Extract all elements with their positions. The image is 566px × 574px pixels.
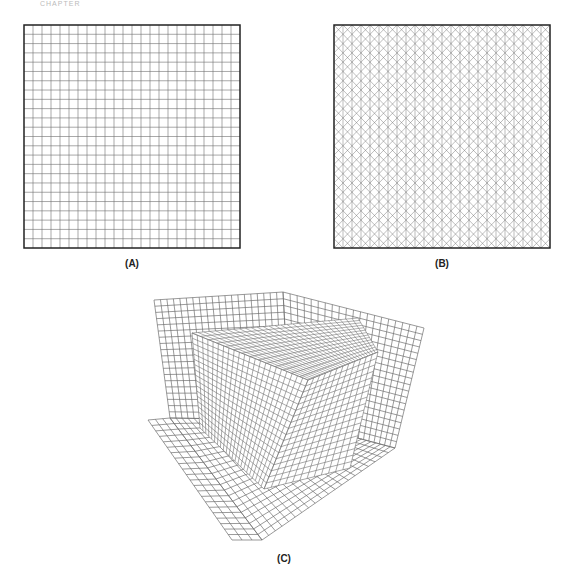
panel-a-quad-grid xyxy=(23,24,241,249)
panel-c-3d-mesh xyxy=(0,280,566,550)
3d-box-mesh-figure xyxy=(0,280,566,550)
quad-grid-figure xyxy=(23,24,241,249)
panel-c-label: (C) xyxy=(264,553,304,564)
panel-b-label: (B) xyxy=(422,258,462,269)
chapter-header: CHAPTER xyxy=(40,0,80,7)
panel-b-triangle-grid xyxy=(333,24,551,249)
triangle-grid-figure xyxy=(333,24,551,249)
panel-a-label: (A) xyxy=(112,258,152,269)
